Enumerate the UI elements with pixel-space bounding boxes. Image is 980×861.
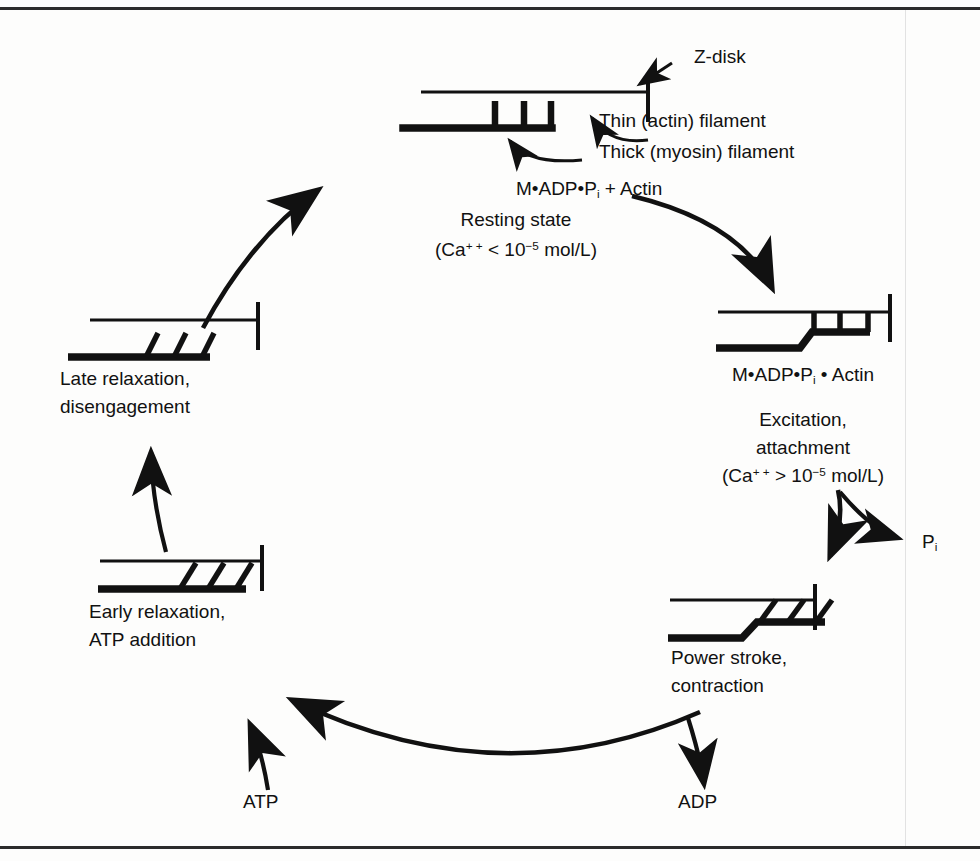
filament-early-relaxation (98, 545, 262, 591)
cycle-arrow-laterelaxation-to-resting (203, 190, 318, 328)
condition-resting-charge: + + (466, 239, 483, 252)
stage-name-earlyrelaxation-line2: ATP addition (89, 629, 196, 651)
formula-resting-prefix: M•ADP•P (516, 178, 597, 199)
formula-resting: M•ADP•Pi + Actin (516, 178, 662, 201)
label-atp: ATP (243, 791, 279, 813)
formula-excitation-suffix: • Actin (816, 364, 874, 385)
label-adp: ADP (678, 791, 717, 813)
cycle-arrow-resting-to-excitation (632, 196, 772, 288)
stage-name-excitation-line1: Excitation, (759, 409, 847, 431)
label-z-disk: Z-disk (694, 46, 746, 68)
label-thick-filament: Thick (myosin) filament (599, 141, 794, 163)
stage-name-resting: Resting state (461, 209, 572, 231)
z-disk-pointer-arrow (640, 63, 672, 84)
phosphate-release-arrow (840, 492, 898, 538)
cycle-arrow-powerstroke-to-earlyrelaxation (292, 700, 700, 753)
condition-excitation-charge: + + (753, 465, 770, 478)
thick-filament-pointer-arrow (510, 141, 582, 161)
filament-power-stroke (668, 584, 832, 638)
label-phosphate: Pi (922, 531, 937, 554)
label-thin-filament: Thin (actin) filament (599, 110, 766, 132)
diagram-canvas: Z-disk Thin (actin) filament Thick (myos… (0, 0, 980, 861)
formula-resting-suffix: + Actin (600, 178, 663, 199)
adp-release-arrow (688, 718, 704, 784)
phosphate-symbol: P (922, 531, 935, 552)
condition-resting-mid: < 10 (483, 239, 526, 260)
condition-excitation-prefix: (Ca (722, 465, 753, 486)
stage-name-laterelaxation-line2: disengagement (60, 396, 190, 418)
stage-name-laterelaxation-line1: Late relaxation, (60, 368, 190, 390)
cycle-arrow-excitation-to-powerstroke (830, 490, 840, 556)
formula-excitation: M•ADP•Pi • Actin (732, 364, 874, 387)
stage-name-powerstroke-line2: contraction (671, 675, 764, 697)
condition-excitation-suffix: mol/L) (826, 465, 884, 486)
stage-name-excitation-line2: attachment (756, 437, 850, 459)
condition-resting-exponent: −5 (525, 239, 538, 252)
condition-excitation: (Ca+ + > 10−5 mol/L) (722, 465, 884, 488)
stage-name-powerstroke-line1: Power stroke, (671, 647, 787, 669)
condition-excitation-mid: > 10 (770, 465, 813, 486)
stage-name-earlyrelaxation-line1: Early relaxation, (89, 601, 225, 623)
condition-resting-suffix: mol/L) (539, 239, 597, 260)
condition-excitation-exponent: −5 (812, 465, 825, 478)
condition-resting: (Ca+ + < 10−5 mol/L) (435, 239, 597, 262)
cycle-arrow-earlyrelaxation-to-laterelaxation (151, 452, 166, 552)
condition-resting-prefix: (Ca (435, 239, 466, 260)
phosphate-subscript: i (935, 540, 938, 553)
atp-addition-arrow (250, 724, 268, 790)
filament-excitation (716, 294, 890, 348)
filament-late-relaxation (68, 302, 258, 357)
formula-excitation-prefix: M•ADP•P (732, 364, 813, 385)
